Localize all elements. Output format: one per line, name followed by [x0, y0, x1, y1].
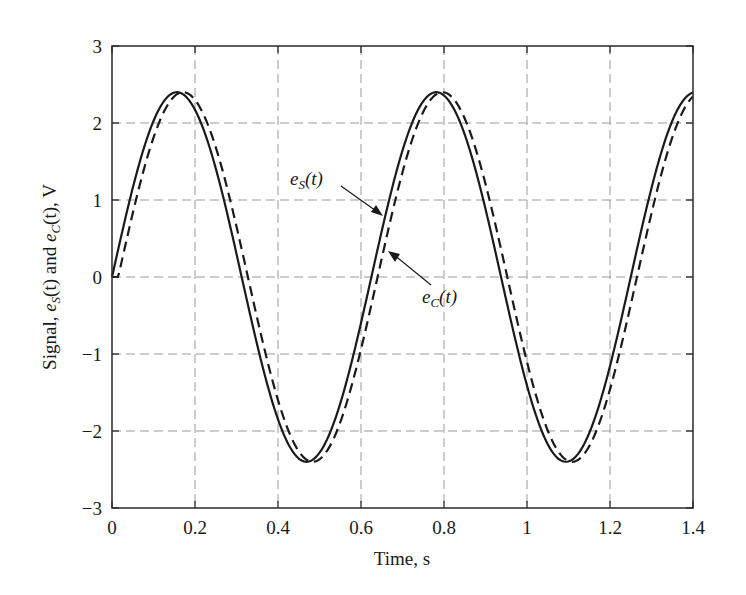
x-tick-label: 1: [522, 517, 532, 538]
y-axis-label: Signal, eS(t) and eC(t), V: [39, 184, 63, 370]
annot-ec-tail: (t): [439, 286, 457, 308]
annot-es-tail: (t): [305, 168, 323, 190]
x-tick-label: 0.6: [349, 517, 373, 538]
x-tick-label: 0.4: [266, 517, 290, 538]
y-tick-label: 1: [93, 190, 103, 211]
y-label-e1: e: [39, 303, 60, 311]
y-label-sub2: C: [48, 225, 63, 234]
y-tick-label: −3: [82, 498, 102, 519]
y-label-prefix: Signal,: [39, 312, 60, 370]
annotation-es: eS(t): [290, 168, 323, 192]
chart: 00.20.40.60.811.21.4 −3−2−10123 Time, s …: [0, 0, 746, 595]
y-tick-label: 2: [93, 113, 103, 134]
annotation-ec-arrow-line: [393, 254, 431, 285]
y-tick-label: 0: [93, 267, 103, 288]
annotation-es-arrowhead-icon: [371, 205, 383, 216]
y-label-mid: (t) and: [39, 242, 61, 297]
x-tick-label: 1.4: [681, 517, 705, 538]
x-tick-label: 0: [107, 517, 117, 538]
y-tick-label: 3: [93, 36, 103, 57]
y-label-e2: e: [39, 234, 60, 242]
annot-ec-sub: C: [430, 295, 439, 310]
annotation-ec: eC(t): [422, 286, 457, 310]
y-label-tail: (t), V: [39, 184, 61, 225]
x-tick-labels: 00.20.40.60.811.21.4: [107, 517, 705, 538]
y-tick-labels: −3−2−10123: [82, 36, 102, 519]
x-tick-label: 0.2: [183, 517, 207, 538]
y-tick-label: −1: [82, 344, 102, 365]
annot-es-base: e: [290, 168, 298, 189]
x-tick-label: 1.2: [598, 517, 622, 538]
x-tick-label: 0.8: [432, 517, 456, 538]
annotation-ec-arrowhead-icon: [388, 251, 400, 262]
x-axis-label: Time, s: [374, 548, 430, 569]
annot-ec-base: e: [422, 286, 430, 307]
grid-lines: [112, 46, 693, 508]
y-tick-label: −2: [82, 421, 102, 442]
